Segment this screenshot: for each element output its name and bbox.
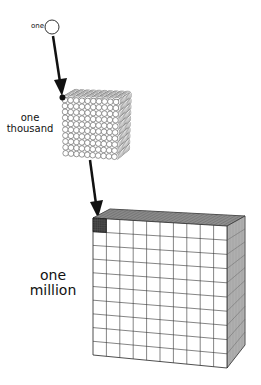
label-thousand-line1: one	[0, 112, 60, 123]
label-one-thousand: one thousand	[0, 112, 60, 134]
label-one-million: one million	[20, 268, 86, 299]
single-unit-sphere	[45, 20, 59, 34]
label-one: one	[18, 23, 44, 31]
scale-diagram	[0, 0, 261, 385]
arrow-thousand-to-million	[90, 160, 103, 218]
highlighted-unit	[60, 95, 66, 101]
arrow-one-to-thousand	[53, 36, 67, 96]
thousand-cube	[60, 89, 132, 159]
million-cube	[93, 209, 245, 368]
label-million-line1: one	[20, 268, 86, 283]
label-thousand-line2: thousand	[0, 123, 60, 134]
label-million-line2: million	[20, 283, 86, 298]
